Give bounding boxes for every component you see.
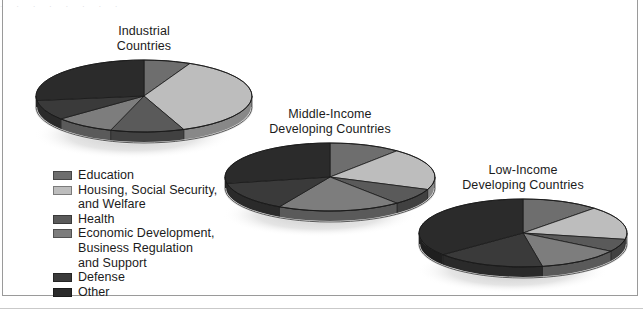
legend-item: Other bbox=[53, 285, 243, 300]
legend-item: Health bbox=[53, 212, 243, 227]
legend-label: Defense bbox=[78, 270, 125, 285]
pie-svg bbox=[393, 173, 643, 319]
legend-item: Economic Development, Business Regulatio… bbox=[53, 226, 243, 270]
legend-swatch bbox=[53, 288, 72, 297]
legend-swatch bbox=[53, 273, 72, 282]
legend-label: Economic Development, Business Regulatio… bbox=[78, 226, 215, 270]
legend-item: Education bbox=[53, 168, 243, 183]
legend-label: Other bbox=[78, 285, 110, 300]
legend-item: Defense bbox=[53, 270, 243, 285]
pie-slice bbox=[36, 60, 144, 101]
legend-swatch bbox=[53, 215, 72, 224]
legend-swatch bbox=[53, 229, 72, 238]
pie-top-face bbox=[419, 199, 627, 267]
legend-label: Health bbox=[78, 212, 114, 227]
legend-item: Housing, Social Security, and Welfare bbox=[53, 183, 243, 212]
cropped-header-text: . . . . . . . . bbox=[0, 0, 643, 9]
legend-swatch bbox=[53, 171, 72, 180]
legend: EducationHousing, Social Security, and W… bbox=[53, 168, 243, 299]
legend-swatch bbox=[53, 186, 72, 195]
pie-chart-low-income: Low-IncomeDeveloping Countries bbox=[393, 173, 643, 319]
legend-label: Housing, Social Security, and Welfare bbox=[78, 183, 217, 212]
figure-canvas: . . . . . . . . IndustrialCountries Midd… bbox=[0, 0, 643, 319]
pie-body-low-income bbox=[393, 173, 643, 319]
legend-label: Education bbox=[78, 168, 134, 183]
